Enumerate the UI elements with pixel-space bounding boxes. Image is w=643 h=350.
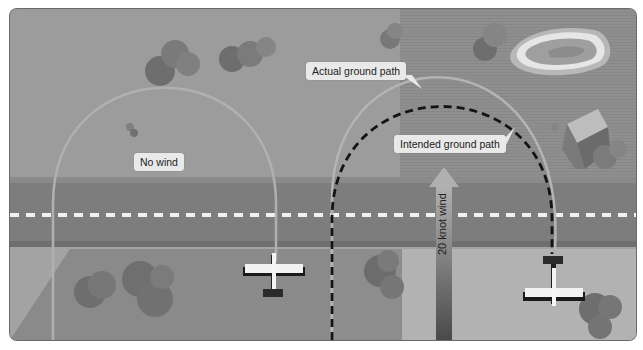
runway-top-shoulder [10,177,636,183]
actual-ground-path-label: Actual ground path [306,62,406,80]
intended-ground-path-label: Intended ground path [394,135,506,153]
runway-bottom-shoulder [10,241,636,247]
diagram-frame: No wind Actual ground path Intended grou… [10,9,636,340]
scene-illustration [10,9,636,340]
wind-label: 20 knot wind [436,193,448,255]
no-wind-label: No wind [134,153,184,171]
runway [10,177,636,247]
